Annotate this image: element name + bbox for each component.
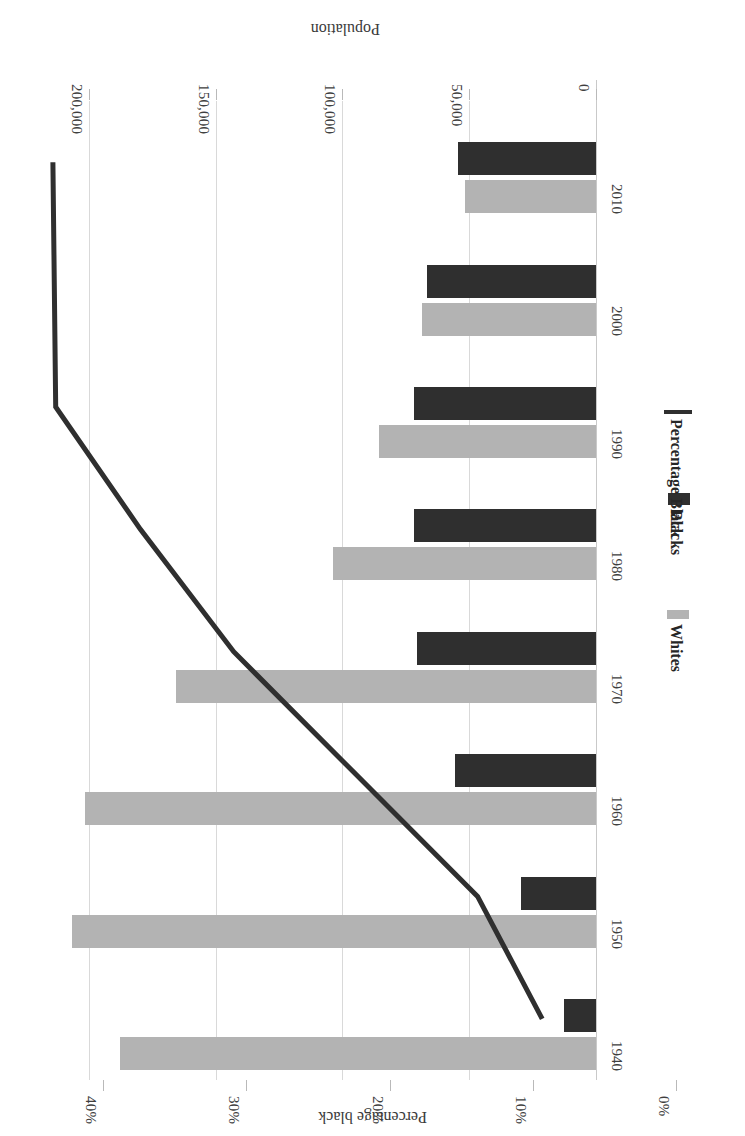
ticklabel-pct-40: 40% bbox=[82, 1096, 99, 1124]
chart-figure: 0 50,000 100,000 150,000 200,000 Populat… bbox=[0, 0, 745, 1136]
legend-swatch-whites-icon bbox=[667, 610, 689, 619]
category-label-1990: 1990 bbox=[608, 429, 625, 459]
tickmark-pct-20 bbox=[390, 1080, 391, 1091]
ticklabel-pop-100000: 100,000 bbox=[321, 84, 338, 134]
line-path bbox=[53, 162, 542, 1019]
category-label-1950: 1950 bbox=[608, 919, 625, 949]
ticklabel-pop-200000: 200,000 bbox=[68, 84, 85, 134]
ticklabel-pop-150000: 150,000 bbox=[195, 84, 212, 134]
tickmark-pop-150000 bbox=[216, 89, 217, 100]
category-label-1960: 1960 bbox=[608, 796, 625, 826]
legend-label-percentage-black: Percentage Black bbox=[667, 419, 685, 537]
percentage-black-line bbox=[90, 101, 597, 1080]
category-label-2010: 2010 bbox=[608, 184, 625, 214]
legend-label-whites: Whites bbox=[667, 624, 685, 672]
tickmark-pct-0 bbox=[676, 1080, 677, 1091]
population-axis-title: Population bbox=[311, 20, 380, 38]
percentage-axis-title: Percentage black bbox=[318, 1108, 427, 1126]
tickmark-pct-10 bbox=[533, 1080, 534, 1091]
tickmark-pct-30 bbox=[246, 1080, 247, 1091]
tickmark-pct-40 bbox=[103, 1080, 104, 1091]
category-label-1940: 1940 bbox=[608, 1041, 625, 1071]
tickmark-pop-0 bbox=[596, 89, 597, 100]
category-label-1980: 1980 bbox=[608, 551, 625, 581]
ticklabel-pct-10: 10% bbox=[512, 1096, 529, 1124]
ticklabel-pct-0: 0% bbox=[655, 1096, 672, 1116]
plot-area bbox=[90, 101, 597, 1080]
tickmark-pop-200000 bbox=[89, 89, 90, 100]
category-label-1970: 1970 bbox=[608, 674, 625, 704]
tickmark-pop-100000 bbox=[343, 89, 344, 100]
legend-swatch-line-icon bbox=[664, 410, 692, 414]
ticklabel-pop-0: 0 bbox=[575, 84, 592, 92]
axis-baseline bbox=[596, 80, 597, 1080]
tickmark-pop-50000 bbox=[469, 89, 470, 100]
ticklabel-pct-30: 30% bbox=[225, 1096, 242, 1124]
category-label-2000: 2000 bbox=[608, 306, 625, 336]
chart-canvas: 0 50,000 100,000 150,000 200,000 Populat… bbox=[0, 0, 745, 1136]
ticklabel-pop-50000: 50,000 bbox=[448, 84, 465, 126]
